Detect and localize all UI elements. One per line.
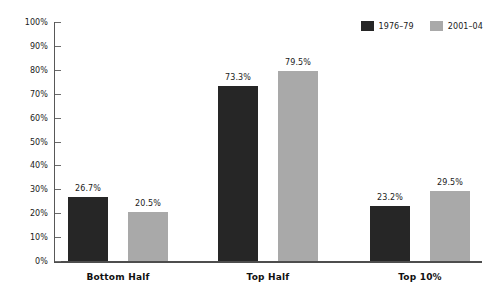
y-axis-line [54,22,55,263]
y-tick-label: 10% [30,233,48,242]
y-tick-label: 30% [30,185,48,194]
y-tick-label: 80% [30,65,48,74]
y-tick-mark [55,142,61,143]
y-tick-mark [55,118,61,119]
plot-area: 0%10%20%30%40%50%60%70%80%90%100% 26.7%2… [54,22,482,263]
bar: 20.5% [128,212,168,261]
category-label: Top 10% [398,272,442,282]
category-label: Top Half [247,272,290,282]
bar: 73.3% [218,86,258,261]
bar-value-label: 29.5% [437,178,463,187]
y-tick-mark [55,94,61,95]
bar-group: 73.3%79.5%Top Half [218,22,318,261]
bar: 23.2% [370,206,410,261]
y-tick-label: 50% [30,137,48,146]
y-tick-mark [55,261,61,262]
bar: 26.7% [68,197,108,261]
y-tick-label: 60% [30,113,48,122]
bar-value-label: 26.7% [75,184,101,193]
bar-value-label: 20.5% [135,199,161,208]
y-tick-mark [55,213,61,214]
y-tick-label: 90% [30,41,48,50]
y-tick-mark [55,165,61,166]
bar-value-label: 73.3% [225,73,251,82]
x-axis-line [54,261,482,263]
bar-group: 23.2%29.5%Top 10% [370,22,470,261]
y-tick-label: 70% [30,89,48,98]
y-tick-label: 20% [30,209,48,218]
y-tick-mark [55,46,61,47]
bar-chart: 1976–792001–04 0%10%20%30%40%50%60%70%80… [0,0,491,301]
y-tick-mark [55,189,61,190]
y-tick-label: 100% [25,18,48,27]
y-tick-mark [55,22,61,23]
y-tick-label: 0% [35,257,48,266]
bar: 29.5% [430,191,470,262]
bar-value-label: 23.2% [377,193,403,202]
y-tick-mark [55,70,61,71]
y-tick-mark [55,237,61,238]
bar-group: 26.7%20.5%Bottom Half [68,22,168,261]
bar: 79.5% [278,71,318,261]
y-tick-label: 40% [30,161,48,170]
category-label: Bottom Half [86,272,149,282]
bar-value-label: 79.5% [285,58,311,67]
